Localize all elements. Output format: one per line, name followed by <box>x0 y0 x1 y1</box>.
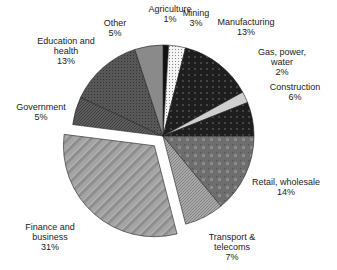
slice-label-government: Government5% <box>16 102 66 122</box>
slice-label-gas-power-water: Gas, power,water2% <box>258 47 306 77</box>
slice-label-education-and-health: Education andhealth13% <box>37 36 95 66</box>
slice-percent: 5% <box>104 28 127 38</box>
slice-percent: 6% <box>270 92 321 102</box>
slice-label-text: Mining <box>183 8 210 18</box>
slice-label-text: Other <box>104 18 127 28</box>
slice-percent: 31% <box>25 242 75 252</box>
slice-label-text: Transport & <box>209 232 256 242</box>
slice-label-mining: Mining3% <box>183 8 210 28</box>
slice-percent: 3% <box>183 18 210 28</box>
slice-label-text: Retail, wholesale <box>252 177 320 187</box>
slice-label-retail-wholesale: Retail, wholesale14% <box>252 177 320 197</box>
slice-label-finance-and-business: Finance andbusiness31% <box>25 222 75 252</box>
slice-label-text: Government <box>16 102 66 112</box>
slice-percent: 7% <box>209 252 256 262</box>
slice-percent: 5% <box>16 112 66 122</box>
slice-label-text: Manufacturing <box>217 17 274 27</box>
slice-label-text: Construction <box>270 82 321 92</box>
slice-percent: 2% <box>258 67 306 77</box>
slice-percent: 13% <box>37 56 95 66</box>
slice-percent: 14% <box>252 187 320 197</box>
slice-label-construction: Construction6% <box>270 82 321 102</box>
slice-label-text: Gas, power, <box>258 47 306 57</box>
pie-slices <box>63 45 254 237</box>
pie-slice-finance-and-business <box>63 134 177 236</box>
slice-label-text: health <box>37 46 95 56</box>
slice-label-text: Education and <box>37 36 95 46</box>
slice-label-text: Finance and <box>25 222 75 232</box>
slice-label-text: water <box>258 57 306 67</box>
slice-label-manufacturing: Manufacturing13% <box>217 17 274 37</box>
slice-label-other: Other5% <box>104 18 127 38</box>
slice-label-text: telecoms <box>209 242 256 252</box>
slice-label-text: business <box>25 232 75 242</box>
slice-label-transport-telecoms: Transport &telecoms7% <box>209 232 256 262</box>
slice-percent: 13% <box>217 27 274 37</box>
